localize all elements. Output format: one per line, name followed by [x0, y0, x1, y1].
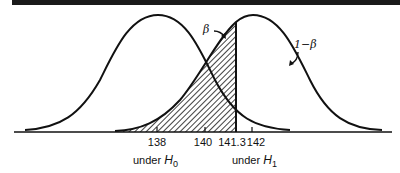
beta-shaded-region: [115, 22, 236, 132]
tick-label-141-3: 141.3: [218, 136, 246, 148]
h1-distribution-curve: [115, 15, 382, 131]
tick-label-140: 140: [194, 136, 212, 148]
h0-distribution-curve: [25, 15, 290, 130]
tick-label-138: 138: [148, 136, 166, 148]
under-h1-label: under H1: [232, 153, 277, 169]
one-minus-beta-text: 1−β: [294, 38, 317, 51]
under-h0-var: H: [164, 153, 173, 167]
top-bar: [12, 0, 400, 5]
under-h0-prefix: under: [133, 154, 164, 166]
under-h0-label: under H0: [133, 153, 178, 169]
tick-label-142: 142: [247, 136, 265, 148]
under-h1-sub: 1: [272, 159, 277, 169]
under-h1-var: H: [263, 153, 272, 167]
one-minus-beta-label: 1−β: [294, 38, 317, 51]
under-h1-prefix: under: [232, 154, 263, 166]
beta-label: β: [203, 23, 209, 36]
under-h0-sub: 0: [173, 159, 178, 169]
